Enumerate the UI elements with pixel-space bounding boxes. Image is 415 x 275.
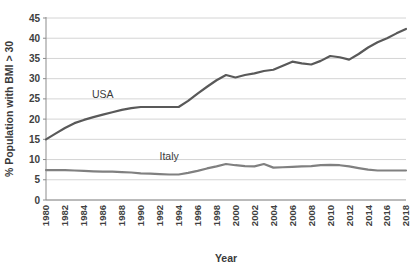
x-tick-label-2004: 2004 <box>268 204 279 226</box>
y-axis-title: % Population with BMI > 30 <box>3 41 15 177</box>
chart-container: 051015202530354045 198019821984198619881… <box>0 0 415 275</box>
x-axis-title: Year <box>215 252 237 264</box>
y-tick-label-10: 10 <box>29 154 41 165</box>
series-label-italy: Italy <box>160 150 180 162</box>
x-tick-label-1986: 1986 <box>97 205 108 226</box>
series-line-usa <box>46 29 406 139</box>
x-tick-label-1992: 1992 <box>154 205 165 226</box>
x-tick-label-2002: 2002 <box>249 205 260 226</box>
x-tick-label-2018: 2018 <box>400 205 411 226</box>
y-tick-label-40: 40 <box>29 33 41 44</box>
x-tick-label-2014: 2014 <box>363 204 374 226</box>
y-tick-label-20: 20 <box>29 114 41 125</box>
x-tick-label-2008: 2008 <box>306 205 317 226</box>
x-tick-label-1990: 1990 <box>135 205 146 226</box>
x-tick-label-1982: 1982 <box>59 205 70 226</box>
x-tick-label-group: 1980198219841986198819901992199419961998… <box>40 204 411 226</box>
y-tick-label-group: 051015202530354045 <box>29 13 41 206</box>
series-line-italy <box>46 164 406 175</box>
x-tick-label-1988: 1988 <box>116 205 127 226</box>
x-tick-label-1996: 1996 <box>192 205 203 226</box>
y-tick-label-15: 15 <box>29 134 41 145</box>
x-tick-label-2016: 2016 <box>381 205 392 226</box>
gridline-group <box>46 18 406 200</box>
y-tick-label-30: 30 <box>29 73 41 84</box>
x-tick-label-2000: 2000 <box>230 205 241 226</box>
x-tick-label-1984: 1984 <box>78 204 89 226</box>
obesity-line-chart: 051015202530354045 198019821984198619881… <box>0 0 415 275</box>
x-tick-label-1994: 1994 <box>173 204 184 226</box>
x-tick-label-2010: 2010 <box>325 205 336 226</box>
x-tick-label-1980: 1980 <box>40 205 51 226</box>
y-tick-label-45: 45 <box>29 13 41 24</box>
data-series-group <box>46 29 406 175</box>
series-label-usa: USA <box>92 88 114 100</box>
y-tick-label-25: 25 <box>29 93 41 104</box>
y-tick-label-0: 0 <box>34 195 40 206</box>
y-tick-label-35: 35 <box>29 53 41 64</box>
x-tick-label-1998: 1998 <box>211 205 222 226</box>
y-tick-label-5: 5 <box>34 174 40 185</box>
x-tick-label-2006: 2006 <box>287 205 298 226</box>
x-tick-label-2012: 2012 <box>344 205 355 226</box>
